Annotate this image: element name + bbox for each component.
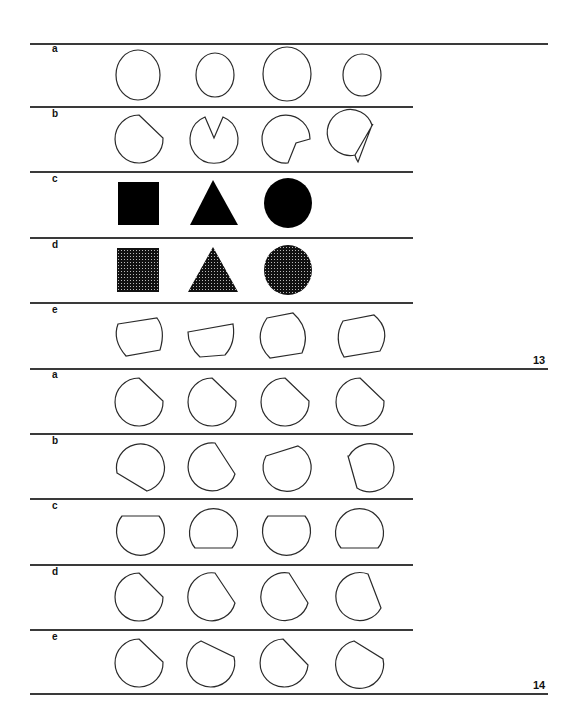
chord-circle-shape	[116, 516, 164, 555]
row-e-chord-circles	[115, 639, 384, 688]
chord-circle-shape	[115, 573, 163, 621]
tilted-rect-shape	[338, 315, 385, 357]
chord-circle-shape	[187, 641, 235, 687]
solid-triangle	[190, 180, 238, 225]
chord-circle-shape	[263, 516, 311, 555]
notched-circle-shape	[327, 109, 373, 162]
tilted-rect-shape	[116, 318, 162, 356]
chord-circle-shape	[261, 573, 308, 621]
chord-circle-shape	[115, 639, 163, 687]
circle-shape	[263, 47, 311, 101]
stippled-triangle	[188, 247, 238, 292]
row-c-chord-circles	[116, 509, 383, 556]
circle-shape	[116, 50, 160, 100]
chord-circle-shape	[188, 378, 236, 426]
tilted-rect-shape	[188, 324, 234, 357]
row-b-notched-circles	[115, 109, 373, 163]
chord-circle-shape	[260, 639, 308, 687]
chord-circle-shape	[336, 641, 384, 688]
notched-circle-shape	[115, 115, 163, 163]
row-b-chord-circles	[116, 443, 393, 492]
row-c-solid-shapes	[118, 178, 312, 228]
tilted-rect-shape	[260, 313, 305, 358]
stippled-circle	[264, 245, 312, 295]
notched-circle-shape	[262, 115, 310, 163]
chord-circle-shape	[115, 378, 163, 426]
chord-circle-shape	[263, 446, 311, 491]
chord-circle-shape	[190, 509, 238, 548]
solid-square	[118, 182, 159, 225]
chord-circle-shape	[348, 444, 394, 492]
figures-canvas	[0, 0, 572, 728]
chord-circle-shape	[188, 443, 235, 491]
row-a-chord-circles	[115, 378, 384, 426]
chord-circle-shape	[116, 444, 164, 491]
chord-circle-shape	[336, 573, 381, 621]
chord-circle-shape	[188, 573, 235, 621]
solid-circle	[264, 178, 312, 228]
circle-shape	[343, 54, 381, 96]
row-d-chord-circles	[115, 573, 381, 621]
chord-circle-shape	[336, 509, 384, 548]
chord-circle-shape	[336, 378, 384, 426]
row-d-stippled-shapes	[117, 245, 312, 295]
stippled-square	[117, 248, 159, 292]
row-a-circles	[116, 47, 381, 101]
notched-circle-shape	[190, 117, 238, 163]
row-e-tilted-shapes	[116, 313, 385, 358]
circle-shape	[196, 53, 234, 97]
chord-circle-shape	[261, 378, 309, 426]
